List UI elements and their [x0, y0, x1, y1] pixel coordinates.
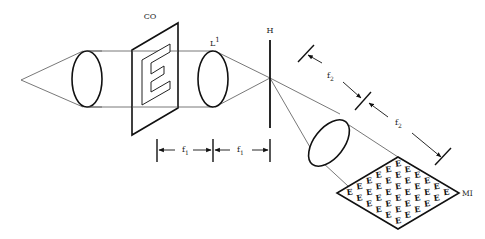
- optical-diagram: CO L1 H f1 f1 f2 f2 EEEEEEEEEEEEEEEEEEEE…: [0, 0, 485, 239]
- image-array-label: MI: [462, 189, 473, 198]
- f1-label-a: f1: [182, 145, 189, 156]
- lens-l2: [301, 112, 358, 173]
- collimating-lens: [72, 51, 102, 107]
- lens-l1-label: L1: [210, 36, 220, 48]
- lens-l1: [198, 51, 228, 107]
- f1-dimension: [157, 139, 270, 162]
- f1-label-b: f1: [237, 145, 244, 156]
- f2-label-a: f2: [327, 71, 334, 82]
- object-plate-co: [132, 23, 178, 135]
- hologram-label: H: [267, 26, 274, 35]
- object-label: CO: [144, 12, 157, 21]
- multiple-image-plate: EEEEEEEEEEEEEEEEEEEEEEEEEEEEEEEEEEEE: [337, 157, 459, 229]
- f2-label-b: f2: [395, 118, 402, 129]
